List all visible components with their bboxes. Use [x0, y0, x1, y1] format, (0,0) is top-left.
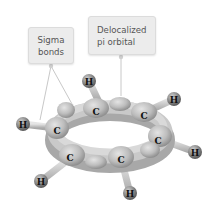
h-label: H [191, 148, 200, 158]
h-label: H [37, 177, 46, 187]
sigma-bonds-callout: Sigma bonds [28, 27, 74, 64]
c-label: C [53, 126, 60, 136]
callout-line: Sigma [31, 34, 71, 46]
callout-line: bonds [31, 46, 71, 58]
callout-line: Delocalized [97, 24, 147, 36]
h-label: H [126, 189, 135, 199]
c-label: C [66, 153, 73, 163]
c-label: C [117, 155, 124, 165]
h-label: H [85, 77, 94, 87]
c-label: C [92, 107, 99, 117]
callout-line: pi orbital [97, 36, 147, 48]
delocalized-pi-orbital-callout: Delocalized pi orbital [88, 16, 156, 55]
h-label: H [170, 95, 179, 105]
h-label: H [19, 120, 28, 130]
benzene-diagram: H H H H H H C C C C C C Sigma bonds Delo… [0, 0, 212, 214]
c-label: C [154, 136, 161, 146]
c-label: C [140, 111, 147, 121]
